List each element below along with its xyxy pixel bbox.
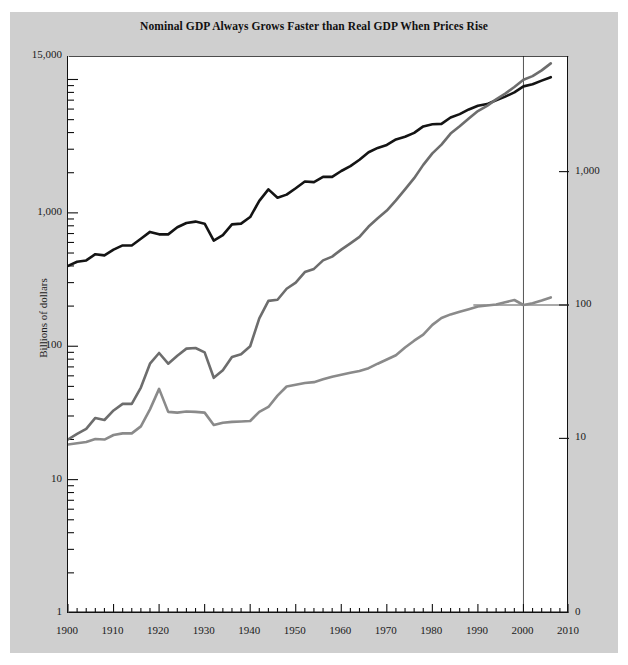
x-label-1980: 1980 xyxy=(411,624,451,636)
x-label-1920: 1920 xyxy=(138,624,178,636)
x-label-1940: 1940 xyxy=(229,624,269,636)
y-axis-left-title: Billions of dollars xyxy=(37,238,49,398)
x-label-1900: 1900 xyxy=(47,624,87,636)
x-label-1910: 1910 xyxy=(93,624,133,636)
y-right-label-100: 100 xyxy=(575,297,592,309)
y-left-label-10: 10 xyxy=(10,472,62,484)
x-label-1970: 1970 xyxy=(366,624,406,636)
series-line-0 xyxy=(68,77,551,266)
y-left-label-100: 100 xyxy=(10,338,62,350)
x-label-2010: 2010 xyxy=(548,624,588,636)
y-left-label-15000: 15,000 xyxy=(10,48,62,60)
x-label-1960: 1960 xyxy=(320,624,360,636)
series-line-2 xyxy=(68,297,551,444)
y-left-label-1000: 1,000 xyxy=(10,205,62,217)
chart-canvas xyxy=(68,56,569,613)
y-left-label-1: 1 xyxy=(10,605,62,617)
axis-tick-marks xyxy=(68,79,569,613)
series-lines xyxy=(68,63,551,444)
chart-title: Nominal GDP Always Grows Faster than Rea… xyxy=(10,20,618,32)
x-label-2000: 2000 xyxy=(502,624,542,636)
x-label-1930: 1930 xyxy=(184,624,224,636)
y-right-label-0: 0 xyxy=(575,605,581,617)
reference-lines xyxy=(473,56,569,613)
y-right-label-10: 10 xyxy=(575,430,586,442)
x-label-1990: 1990 xyxy=(457,624,497,636)
figure-panel: Nominal GDP Always Grows Faster than Rea… xyxy=(10,12,618,653)
x-label-1950: 1950 xyxy=(275,624,315,636)
plot-area xyxy=(67,56,568,613)
y-right-label-1000: 1,000 xyxy=(575,164,600,176)
